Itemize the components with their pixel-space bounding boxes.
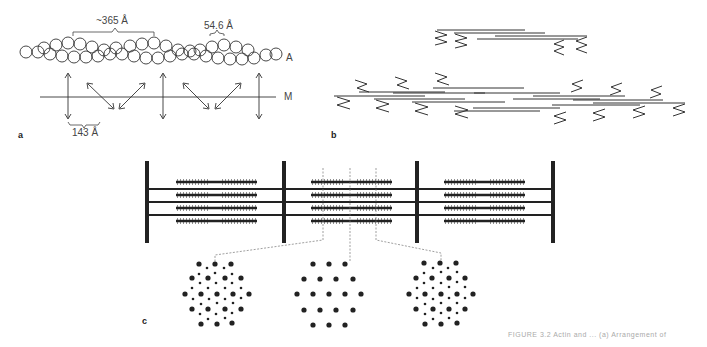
panel-b-letter: b (331, 130, 337, 140)
cross-section-left (182, 261, 251, 326)
crossbridge-arrows (65, 73, 262, 119)
figure-caption: FIGURE 3.2 Actin and ... (a) Arrangement… (508, 331, 666, 338)
panel-c-letter: c (142, 316, 147, 326)
panel-a-letter: a (18, 130, 23, 140)
label-spacing: 143 Å (72, 127, 98, 138)
label-subunit: 54.6 Å (204, 20, 233, 31)
actin-filament (20, 37, 282, 65)
figure-canvas (0, 0, 707, 347)
cross-section-right (406, 260, 475, 326)
brace-365 (73, 28, 154, 36)
label-myosin: M (284, 91, 292, 102)
label-actin: A (286, 52, 293, 63)
label-period: ~365 Å (96, 15, 128, 26)
cross-section-middle (294, 261, 363, 327)
panel-b-filaments (334, 30, 685, 124)
